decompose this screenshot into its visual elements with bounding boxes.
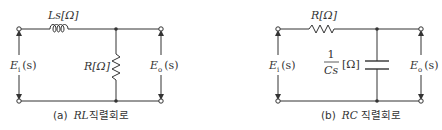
node-dot <box>114 27 118 31</box>
rc-circuit: R[Ω] 1 Cs [Ω] Ei(s) Eo(s) (b)RC 직렬회로 <box>268 9 438 121</box>
terminal-icon <box>276 27 280 31</box>
rl-circuit: Ls[Ω] R[Ω] Ei(s) Eo(s) (a)RL직렬회로 <box>9 9 178 121</box>
inductor-label: Ls[Ω] <box>47 9 79 22</box>
terminal-icon <box>419 27 423 31</box>
input-voltage-label: Ei(s) <box>268 59 296 74</box>
resistor-label: R[Ω] <box>310 9 338 22</box>
svg-text:[Ω]: [Ω] <box>342 58 360 71</box>
terminal-icon <box>17 27 21 31</box>
terminal-icon <box>17 99 21 103</box>
output-voltage-label: Eo(s) <box>149 59 178 74</box>
node-dot <box>114 99 118 103</box>
resistor-icon <box>309 25 334 33</box>
resistor-label: R[Ω] <box>83 60 111 73</box>
terminal-icon <box>159 27 163 31</box>
inductor-icon <box>50 25 75 33</box>
node-dot <box>375 99 379 103</box>
output-voltage-label: Eo(s) <box>409 59 438 74</box>
caption-a: (a)RL직렬회로 <box>53 109 129 121</box>
input-voltage-label: Ei(s) <box>9 59 37 74</box>
svg-text:1: 1 <box>328 48 335 61</box>
terminal-icon <box>419 99 423 103</box>
terminal-icon <box>159 99 163 103</box>
svg-text:Cs: Cs <box>324 64 338 77</box>
caption-b: (b)RC 직렬회로 <box>321 109 401 121</box>
terminal-icon <box>276 99 280 103</box>
node-dot <box>375 27 379 31</box>
resistor-icon <box>112 54 120 80</box>
capacitor-impedance-label: 1 Cs [Ω] <box>324 48 360 77</box>
